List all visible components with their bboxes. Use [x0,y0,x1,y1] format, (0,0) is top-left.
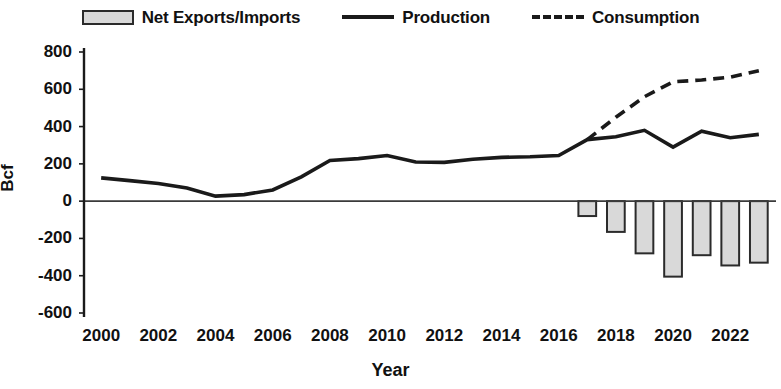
y-tick-label-800: 800 [12,43,72,60]
y-tick-label-200: 200 [12,155,72,172]
chart-container: Net Exports/Imports Production Consumpti… [0,0,781,389]
y-tick-label--200: -200 [12,229,72,246]
y-tick-label-400: 400 [12,118,72,135]
x-tick-label-2012: 2012 [414,327,474,344]
y-tick-label-0: 0 [12,192,72,209]
bar-2022 [721,201,739,265]
bar-2017 [578,201,596,216]
y-axis-title: Bcf [0,148,18,208]
x-tick-label-2018: 2018 [586,327,646,344]
bar-2020 [664,201,682,277]
y-tick-label-600: 600 [12,80,72,97]
x-tick-label-2014: 2014 [472,327,532,344]
x-tick-label-2010: 2010 [357,327,417,344]
x-tick-label-2020: 2020 [643,327,703,344]
y-tick-label--400: -400 [12,267,72,284]
series-line-production [101,130,759,196]
bars-layer [578,201,767,277]
x-tick-label-2008: 2008 [300,327,360,344]
series-line-consumption [587,71,759,140]
x-tick-label-2006: 2006 [243,327,303,344]
bar-2019 [636,201,654,253]
bar-2018 [607,201,625,232]
x-tick-label-2000: 2000 [71,327,131,344]
axis-layer [79,48,84,317]
x-tick-label-2016: 2016 [529,327,589,344]
bar-2021 [693,201,711,255]
x-tick-label-2022: 2022 [700,327,760,344]
x-tick-label-2002: 2002 [128,327,188,344]
plot-area: 8006004002000-200-400-600 20002002200420… [0,0,781,389]
bar-2023 [750,201,768,263]
y-tick-label--600: -600 [12,304,72,321]
lines-layer [101,71,759,196]
x-axis-title: Year [0,360,781,381]
x-tick-label-2004: 2004 [186,327,246,344]
